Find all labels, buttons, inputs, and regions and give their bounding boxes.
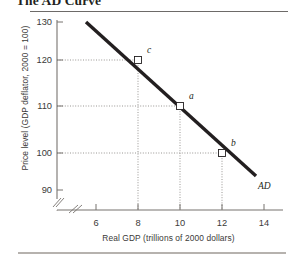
- y-tick-label: 110: [37, 101, 52, 111]
- ad-curve-label: AD: [257, 181, 271, 191]
- ad-curve-plot: 130 120 110 100 90 6 8 10 12 14: [0, 0, 293, 261]
- ad-curve-line: [86, 22, 256, 176]
- data-point-label-a: a: [189, 91, 194, 101]
- x-tick-label: 12: [217, 218, 227, 228]
- x-tick-label: 10: [175, 218, 185, 228]
- data-point-label-c: c: [147, 45, 152, 55]
- data-point-marker[interactable]: [135, 57, 142, 64]
- axis-break-marks: [53, 198, 82, 213]
- y-tick-label: 100: [36, 148, 52, 158]
- x-tick-label: 8: [135, 218, 140, 228]
- y-tick-label: 90: [42, 185, 52, 195]
- axis-lines: [57, 20, 283, 211]
- x-tick-labels: 6 8 10 12 14: [93, 218, 269, 228]
- figure-panel: The AD Curve Price level (GDP deflator, …: [0, 0, 293, 261]
- data-point-marker[interactable]: [177, 103, 184, 110]
- data-point-label-b: b: [231, 138, 236, 148]
- y-axis-ticks: [57, 22, 63, 190]
- data-point-markers: [135, 57, 226, 157]
- x-axis-ticks: [96, 204, 264, 210]
- x-tick-label: 6: [93, 218, 98, 228]
- y-tick-label: 130: [36, 17, 52, 27]
- y-tick-label: 120: [36, 55, 52, 65]
- data-point-labels: c a b: [147, 45, 236, 148]
- y-tick-labels: 130 120 110 100 90: [36, 17, 52, 195]
- gridlines: [57, 60, 222, 210]
- data-point-marker[interactable]: [219, 150, 226, 157]
- x-tick-label: 14: [259, 218, 269, 228]
